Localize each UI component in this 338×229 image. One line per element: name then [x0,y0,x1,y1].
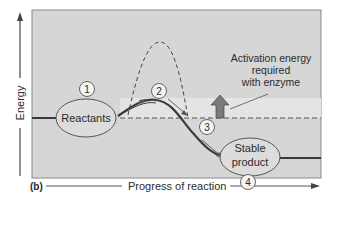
svg-text:3: 3 [204,122,210,133]
x-axis: (b) Progress of reaction [30,180,320,192]
annotation-line-3: with enzyme [241,76,301,88]
panel-label: (b) [30,181,43,192]
arrow-up-icon [17,12,23,21]
y-axis-label: Energy [14,85,26,120]
svg-text:1: 1 [84,84,90,95]
reactants-node: Reactants [56,99,116,137]
step-marker-1: 1 [80,82,95,97]
step-marker-2: 2 [152,84,167,99]
stable-product-label-2: product [232,156,269,168]
step-marker-4: 4 [241,175,256,190]
reactants-label: Reactants [61,112,111,124]
annotation-line-1: Activation energy [231,52,312,64]
annotation-line-2: required [252,64,291,76]
y-axis: Energy [14,12,26,176]
stable-product-label-1: Stable [234,142,265,154]
energy-diagram: Energy (b) Progress of reaction Activati… [0,0,338,229]
x-axis-label: Progress of reaction [128,180,226,192]
stable-product-node: Stable product [220,138,280,176]
step-marker-3: 3 [200,120,215,135]
arrow-right-icon [311,183,320,189]
svg-text:4: 4 [245,177,251,188]
svg-text:2: 2 [156,86,162,97]
